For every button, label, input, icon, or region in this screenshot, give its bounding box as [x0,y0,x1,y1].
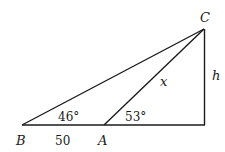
vertex-a-label: A [97,133,107,148]
vertex-c-label: C [200,10,210,25]
vertex-b-label: B [15,133,26,148]
line-BC [22,29,204,125]
triangle-diagram: C h x 46° 53° B 50 A [0,0,225,152]
side-x-label: x [160,74,168,89]
height-label: h [212,68,220,83]
angle-a-label: 53° [125,110,146,124]
angle-b-label: 46° [58,110,79,124]
side-ba-label: 50 [55,134,70,148]
line-AC [104,29,204,125]
